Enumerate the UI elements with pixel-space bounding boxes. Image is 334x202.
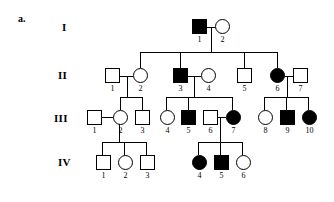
individual-i-2-circle-open[interactable] — [215, 19, 230, 34]
individual-number-iv-6: 6 — [231, 172, 256, 180]
individual-number-ii-4: 4 — [196, 85, 221, 93]
individual-iv-2-circle-open[interactable] — [118, 155, 133, 170]
drop-IV-2 — [124, 142, 125, 155]
individual-iv-6-circle-open[interactable] — [236, 155, 251, 170]
individual-number-iii-7: 7 — [221, 127, 246, 135]
drop-IV-5 — [220, 142, 221, 155]
individual-number-iii-6: 6 — [198, 127, 223, 135]
generation-label-iii: III — [54, 113, 68, 124]
individual-iii-8-circle-open[interactable] — [258, 110, 273, 125]
individual-number-i-1: 1 — [187, 36, 212, 44]
individual-number-ii-1: 1 — [100, 85, 125, 93]
individual-ii-4-circle-open[interactable] — [201, 68, 216, 83]
individual-iii-5-square-filled[interactable] — [181, 110, 196, 125]
individual-number-ii-5: 5 — [232, 85, 257, 93]
individual-number-i-2: 2 — [210, 36, 235, 44]
individual-iii-9-square-filled[interactable] — [280, 110, 295, 125]
individual-number-iii-1: 1 — [82, 127, 107, 135]
generation-label-iv: IV — [58, 157, 71, 168]
individual-iv-3-square-open[interactable] — [140, 155, 155, 170]
drop-III-2 — [120, 97, 121, 110]
pedigree-figure: a. IIIIIIIV 12123456712345678910123456 — [0, 0, 334, 202]
individual-number-ii-7: 7 — [288, 85, 313, 93]
individual-ii-7-square-open[interactable] — [293, 68, 308, 83]
individual-i-1-square-filled[interactable] — [192, 19, 207, 34]
individual-number-iii-10: 10 — [297, 127, 322, 135]
individual-number-iv-3: 3 — [135, 172, 160, 180]
descent-II-3-II-4 — [194, 76, 195, 98]
individual-iii-7-circle-filled[interactable] — [226, 110, 241, 125]
panel-label: a. — [18, 14, 26, 24]
drop-IV-3 — [146, 142, 147, 155]
generation-label-i: I — [62, 22, 67, 33]
individual-iii-1-square-open[interactable] — [87, 110, 102, 125]
drop-II-5 — [244, 52, 245, 68]
individual-ii-1-square-open[interactable] — [105, 68, 120, 83]
individual-iv-4-circle-filled[interactable] — [192, 155, 207, 170]
drop-IV-6 — [242, 142, 243, 155]
drop-II-2 — [140, 52, 141, 68]
individual-number-ii-2: 2 — [128, 85, 153, 93]
individual-number-ii-6: 6 — [265, 85, 290, 93]
individual-iv-1-square-open[interactable] — [96, 155, 111, 170]
individual-number-iii-3: 3 — [130, 127, 155, 135]
drop-III-8 — [264, 97, 265, 110]
drop-IV-4 — [198, 142, 199, 155]
individual-iii-2-circle-open[interactable] — [113, 110, 128, 125]
drop-III-10 — [308, 97, 309, 110]
individual-iii-3-square-open[interactable] — [135, 110, 150, 125]
drop-II-3 — [180, 52, 181, 68]
drop-IV-1 — [102, 142, 103, 155]
individual-iii-6-square-open[interactable] — [203, 110, 218, 125]
individual-iv-5-square-filled[interactable] — [214, 155, 229, 170]
individual-ii-6-circle-filled[interactable] — [270, 68, 285, 83]
individual-iii-10-circle-filled[interactable] — [302, 110, 317, 125]
sibship-bar-III-a — [120, 97, 142, 98]
individual-iii-4-circle-open[interactable] — [160, 110, 175, 125]
individual-number-ii-3: 3 — [168, 85, 193, 93]
drop-III-7 — [232, 97, 233, 110]
drop-II-6 — [277, 52, 278, 68]
drop-III-9 — [286, 97, 287, 110]
sibship-bar-II — [140, 52, 278, 53]
drop-III-3 — [142, 97, 143, 110]
individual-ii-3-square-filled[interactable] — [173, 68, 188, 83]
individual-ii-2-circle-open[interactable] — [133, 68, 148, 83]
individual-ii-5-square-open[interactable] — [237, 68, 252, 83]
sibship-bar-III-b — [166, 97, 233, 98]
drop-III-4 — [166, 97, 167, 110]
generation-label-ii: II — [58, 70, 67, 81]
drop-III-5 — [188, 97, 189, 110]
